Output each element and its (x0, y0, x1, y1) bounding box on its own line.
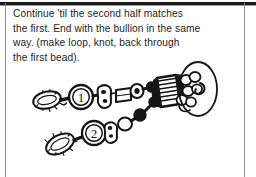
lower-bead-cluster (104, 97, 159, 143)
bead-1-label: 1 (78, 90, 85, 105)
page-left-border (5, 3, 6, 177)
scanned-page: Continue 'til the second half matches th… (0, 0, 256, 177)
upper-tube-bead (116, 88, 131, 102)
lower-bullion-loop-icon (43, 129, 82, 159)
upper-bullion-loop-icon (32, 89, 70, 112)
page-top-border-shadow (0, 5, 256, 6)
instruction-line-2: the first. End with the bullion in the s… (13, 22, 228, 37)
page-right-border (244, 3, 245, 177)
beaded-strand-illustration: 1 (30, 56, 220, 166)
numbered-bead-2: 2 (82, 121, 106, 145)
instruction-line-3: way. (make loop, knot, back through (13, 36, 228, 51)
bead-2-label: 2 (91, 126, 98, 141)
numbered-bead-1: 1 (69, 85, 93, 109)
instruction-line-1: Continue 'til the second half matches (13, 7, 228, 22)
